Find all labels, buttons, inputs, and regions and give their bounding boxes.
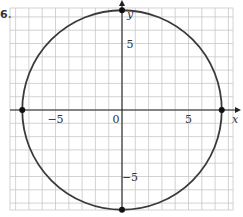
intercept-point <box>219 107 225 113</box>
x-axis-label: x <box>232 113 239 126</box>
intercept-point <box>119 7 125 13</box>
y-axis-label: y <box>126 8 134 21</box>
x-tick-label: 5 <box>185 113 192 126</box>
intercept-point <box>119 207 125 213</box>
x-tick-label: −5 <box>47 113 63 126</box>
y-tick-label: 5 <box>127 38 134 51</box>
y-axis-arrow-icon <box>119 0 125 6</box>
circle-plot: −5055−5xy <box>0 0 243 217</box>
y-tick-label: −5 <box>122 171 138 184</box>
x-tick-label: 0 <box>113 113 120 126</box>
intercept-point <box>19 107 25 113</box>
